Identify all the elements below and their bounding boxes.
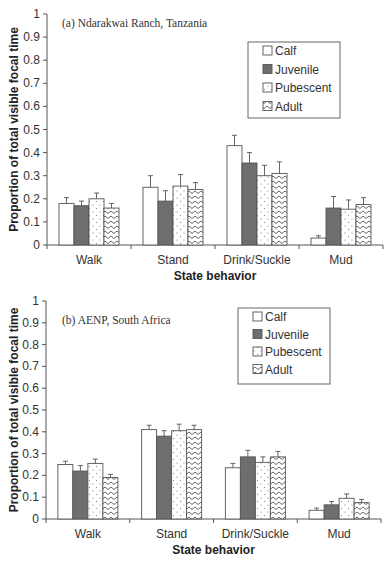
chart-panel-a: 00.10.20.30.40.50.60.70.80.91WalkStandDr… <box>0 0 392 284</box>
legend-swatch-pubescent <box>263 83 272 92</box>
bar-chart-a: 00.10.20.30.40.50.60.70.80.91WalkStandDr… <box>0 0 392 284</box>
bar-calf <box>225 468 240 519</box>
y-tick-label: 0.6 <box>22 381 39 395</box>
panel-title: (b) AENP, South Africa <box>62 314 171 327</box>
legend-label-adult: Adult <box>265 363 293 377</box>
y-tick-label: 0.4 <box>22 425 39 439</box>
bar-adult <box>104 208 119 245</box>
bar-pubescent <box>255 462 270 519</box>
bar-juvenile <box>74 206 89 245</box>
y-tick-label: 0.9 <box>23 30 40 44</box>
y-tick-label: 1 <box>33 7 40 21</box>
bar-pubescent <box>88 463 103 519</box>
legend-label-adult: Adult <box>275 100 303 114</box>
bar-calf <box>143 187 158 245</box>
chart-panel-b: 00.10.20.30.40.50.60.70.80.91WalkStandDr… <box>0 286 392 564</box>
y-tick-label: 0.3 <box>23 169 40 183</box>
bar-pubescent <box>341 209 356 245</box>
bar-adult <box>103 478 118 519</box>
y-tick-label: 0.5 <box>23 123 40 137</box>
legend-swatch-juvenile <box>253 330 262 339</box>
legend-swatch-calf <box>263 46 272 55</box>
y-tick-label: 1 <box>32 294 39 308</box>
legend-swatch-pubescent <box>253 347 262 356</box>
bar-juvenile <box>158 201 173 245</box>
y-tick-label: 0 <box>32 512 39 526</box>
bar-juvenile <box>324 505 339 519</box>
y-tick-label: 0.8 <box>23 53 40 67</box>
legend-swatch-calf <box>253 312 262 321</box>
panel-title: (a) Ndarakwai Ranch, Tanzania <box>62 17 207 30</box>
legend-label-calf: Calf <box>265 310 287 324</box>
y-tick-label: 0.3 <box>22 447 39 461</box>
legend-label-pubescent: Pubescent <box>265 345 322 359</box>
legend-label-juvenile: Juvenile <box>275 63 319 77</box>
bar-adult <box>272 173 287 245</box>
bar-pubescent <box>89 199 104 245</box>
x-category-label: Mud <box>329 253 352 267</box>
y-tick-label: 0.1 <box>22 490 39 504</box>
y-axis-title: Proportion of total visible focal time <box>7 307 21 512</box>
x-category-label: Stand <box>157 253 188 267</box>
y-tick-label: 0.4 <box>23 146 40 160</box>
bar-adult <box>356 205 371 245</box>
legend-label-juvenile: Juvenile <box>265 328 309 342</box>
bar-pubescent <box>172 431 187 519</box>
y-tick-label: 0.1 <box>23 215 40 229</box>
bar-calf <box>311 238 326 245</box>
bar-calf <box>58 465 73 520</box>
bar-calf <box>59 203 74 245</box>
legend-swatch-adult <box>263 102 272 111</box>
y-tick-label: 0.9 <box>22 316 39 330</box>
legend-swatch-adult <box>253 365 262 374</box>
bar-pubescent <box>339 498 354 519</box>
bar-chart-b: 00.10.20.30.40.50.60.70.80.91WalkStandDr… <box>0 286 392 564</box>
bar-calf <box>309 510 324 519</box>
y-tick-label: 0.7 <box>23 76 40 90</box>
legend-label-calf: Calf <box>275 44 297 58</box>
x-category-label: Drink/Suckle <box>222 527 290 541</box>
bar-adult <box>187 430 202 519</box>
legend: CalfJuvenilePubescentAdult <box>238 308 330 384</box>
x-category-label: Stand <box>156 527 187 541</box>
x-category-label: Mud <box>327 527 350 541</box>
bar-pubescent <box>173 186 188 245</box>
x-category-label: Drink/Suckle <box>223 253 291 267</box>
legend-label-pubescent: Pubescent <box>275 81 332 95</box>
legend-swatch-juvenile <box>263 65 272 74</box>
y-axis-title: Proportion of total visible focal time <box>7 27 21 232</box>
y-tick-label: 0 <box>33 238 40 252</box>
bar-pubescent <box>257 176 272 245</box>
y-tick-label: 0.2 <box>23 192 40 206</box>
x-category-label: Walk <box>75 527 102 541</box>
y-tick-label: 0.8 <box>22 338 39 352</box>
x-axis-title: State behavior <box>172 543 255 557</box>
bar-juvenile <box>326 208 341 245</box>
legend: CalfJuvenilePubescentAdult <box>248 42 340 118</box>
y-tick-label: 0.7 <box>22 359 39 373</box>
bar-adult <box>188 190 203 245</box>
y-tick-label: 0.6 <box>23 99 40 113</box>
bar-calf <box>142 430 157 519</box>
bar-juvenile <box>240 457 255 519</box>
y-tick-label: 0.2 <box>22 468 39 482</box>
bar-juvenile <box>157 436 172 519</box>
x-category-label: Walk <box>76 253 103 267</box>
bar-juvenile <box>242 163 257 245</box>
bar-adult <box>270 457 285 519</box>
x-axis-title: State behavior <box>174 269 257 283</box>
y-tick-label: 0.5 <box>22 403 39 417</box>
bar-adult <box>354 503 369 519</box>
bar-calf <box>227 146 242 245</box>
bar-juvenile <box>73 471 88 519</box>
